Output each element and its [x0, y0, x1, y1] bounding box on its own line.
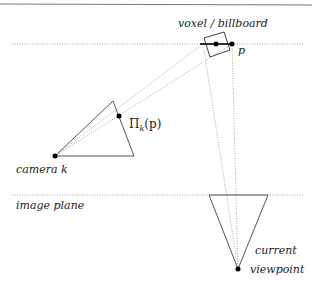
- voxel-label: voxel / billboard: [178, 17, 268, 30]
- viewpoint-frustum: [209, 195, 268, 269]
- ray-viewpoint-to-p: [232, 44, 238, 269]
- ray-viewpoint-to-voxel-edge: [204, 50, 238, 269]
- diagram-canvas: voxel / billboard p Πk(p) camera k image…: [0, 0, 312, 287]
- image-plane-label: image plane: [16, 199, 85, 212]
- top-border: [0, 4, 312, 5]
- viewpoint-point: [236, 267, 241, 272]
- camera-k-label: camera k: [16, 163, 68, 176]
- voxel-center-point: [214, 42, 219, 47]
- current-label: current: [255, 244, 297, 257]
- point-p: [230, 42, 235, 47]
- projection-arg: (p): [144, 117, 161, 131]
- viewpoint-label: viewpoint: [250, 263, 305, 276]
- camera-k-point: [53, 154, 58, 159]
- p-label: p: [238, 44, 245, 57]
- projection-base: Π: [129, 117, 139, 131]
- projection-label: Πk(p): [129, 117, 161, 133]
- projection-point: [117, 114, 122, 119]
- camera-k-frustum: [55, 101, 134, 156]
